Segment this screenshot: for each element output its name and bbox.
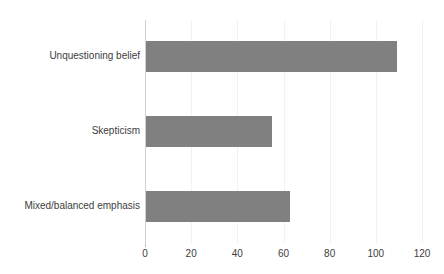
x-tick-label-1: 20 <box>186 248 197 260</box>
x-axis-tick-labels: 0 20 40 60 80 100 120 <box>0 248 444 264</box>
x-tick-label-5: 100 <box>367 248 384 260</box>
x-tick-label-3: 60 <box>278 248 289 260</box>
bar-mixed-balanced-emphasis <box>145 191 290 222</box>
category-axis-labels: Unquestioning belief Skepticism Mixed/ba… <box>0 0 140 274</box>
x-tick-label-0: 0 <box>142 248 148 260</box>
x-tick-label-6: 120 <box>414 248 431 260</box>
y-axis-spine <box>145 20 146 244</box>
x-tick-mark-0 <box>145 244 146 247</box>
bar-unquestioning-belief <box>145 41 397 72</box>
bar-skepticism <box>145 116 272 147</box>
bar-chart: Unquestioning belief Skepticism Mixed/ba… <box>0 0 444 274</box>
category-label-1: Skepticism <box>0 125 140 137</box>
category-label-0: Unquestioning belief <box>0 50 140 62</box>
plot-area <box>145 20 422 243</box>
category-label-2: Mixed/balanced emphasis <box>0 200 140 212</box>
x-tick-label-2: 40 <box>232 248 243 260</box>
gridline-120 <box>422 20 423 243</box>
x-tick-label-4: 80 <box>324 248 335 260</box>
